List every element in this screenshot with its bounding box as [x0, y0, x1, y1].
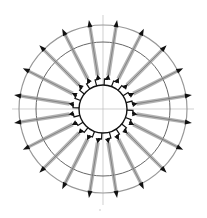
axes	[12, 15, 194, 205]
bottom-dot	[99, 209, 100, 210]
outer-arrowhead-icon	[114, 191, 119, 198]
arrow-shaft-line	[137, 114, 186, 122]
arrow-shaft-line	[20, 96, 69, 104]
arrow-shaft-line	[137, 96, 186, 104]
outer-arrowhead-icon	[185, 94, 192, 99]
outer-arrowhead-icon	[114, 20, 119, 27]
arrow-shaft-line	[108, 143, 116, 192]
outer-arrowhead-icon	[88, 20, 93, 27]
outer-arrowhead-icon	[14, 120, 21, 125]
arrow-shaft-line	[20, 114, 69, 122]
radial-arrow-diagram	[0, 0, 207, 218]
arrow-shaft-line	[90, 26, 98, 75]
outer-arrowhead-icon	[185, 120, 192, 125]
outer-arrowhead-icon	[88, 191, 93, 198]
arrow-shaft-line	[108, 26, 116, 75]
arrow-shaft-line	[90, 143, 98, 192]
outer-arrowhead-icon	[14, 94, 21, 99]
